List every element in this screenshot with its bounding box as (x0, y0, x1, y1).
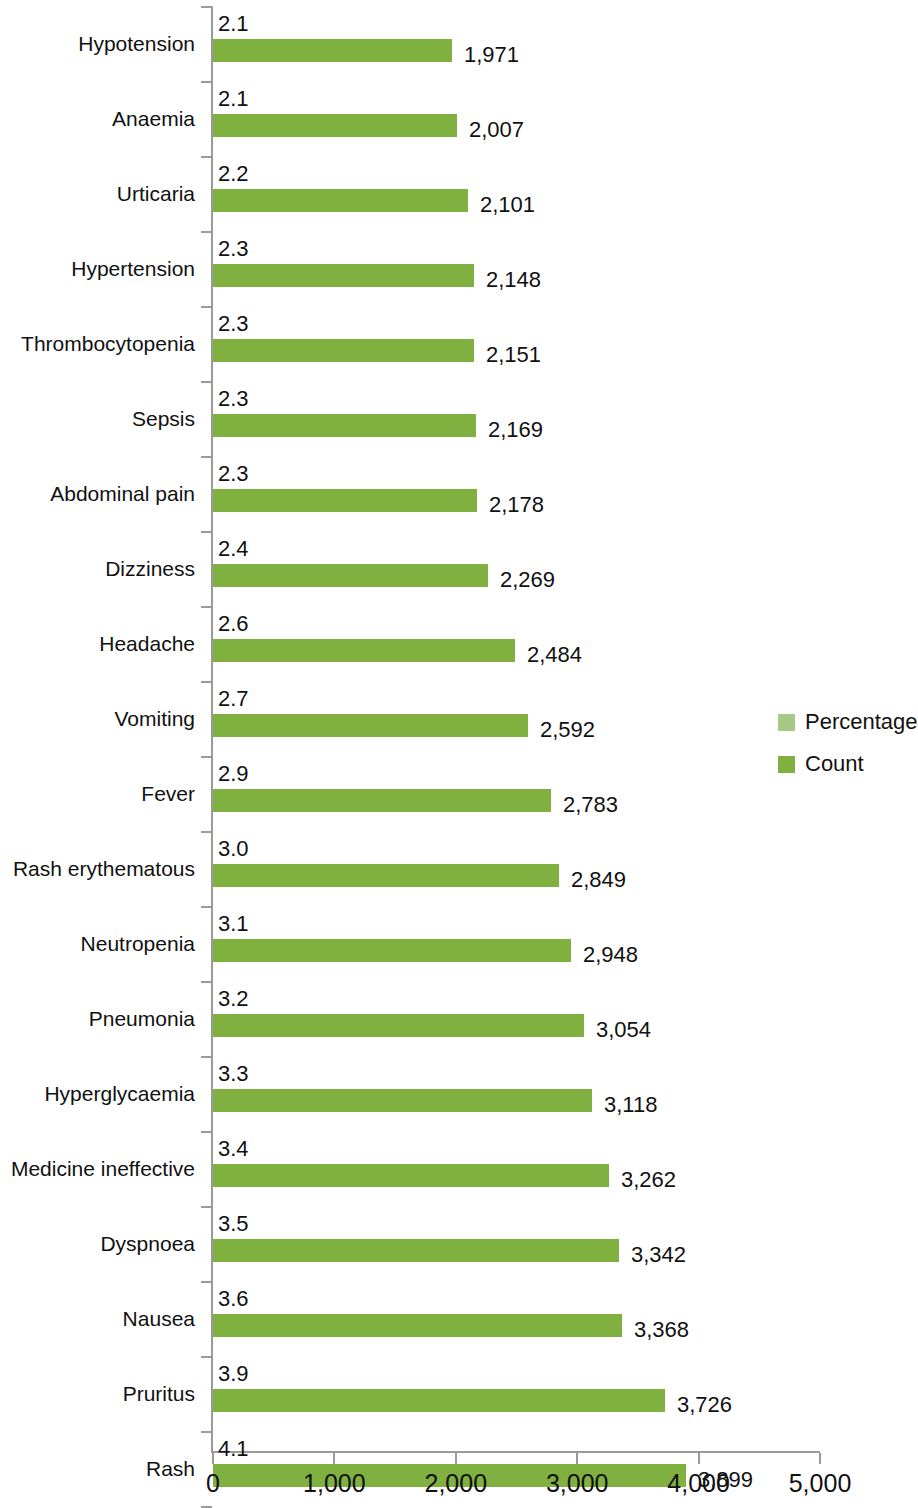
x-axis-tick (698, 1453, 700, 1464)
percentage-value-label: 3.6 (218, 1287, 249, 1311)
percentage-value-label: 2.3 (218, 237, 249, 261)
count-bar (213, 864, 559, 887)
category-label: Abdominal pain (0, 482, 195, 506)
count-bar (213, 39, 452, 62)
bar-row: Fever2.92,783 (0, 756, 904, 831)
bar-row: Nausea3.63,368 (0, 1281, 904, 1356)
count-value-label: 3,262 (621, 1168, 676, 1192)
percentage-value-label: 2.3 (218, 312, 249, 336)
y-axis-tick (201, 531, 212, 533)
count-bar (213, 264, 474, 287)
count-value-label: 2,948 (583, 943, 638, 967)
count-bar (213, 189, 468, 212)
percentage-value-label: 2.4 (218, 537, 249, 561)
percentage-value-label: 3.4 (218, 1137, 249, 1161)
count-bar (213, 714, 528, 737)
y-axis-tick (201, 681, 212, 683)
bar-row: Pneumonia3.23,054 (0, 981, 904, 1056)
percentage-value-label: 3.3 (218, 1062, 249, 1086)
count-value-label: 3,368 (634, 1318, 689, 1342)
percentage-value-label: 2.3 (218, 462, 249, 486)
count-bar (213, 1239, 619, 1262)
x-axis-tick (576, 1453, 578, 1464)
percentage-value-label: 2.1 (218, 87, 249, 111)
category-label: Pneumonia (0, 1007, 195, 1031)
y-axis-tick (201, 1056, 212, 1058)
category-label: Medicine ineffective (0, 1157, 195, 1181)
count-bar (213, 114, 457, 137)
y-axis-tick (201, 81, 212, 83)
count-bar (213, 414, 476, 437)
count-bar (213, 1389, 665, 1412)
category-label: Pruritus (0, 1382, 195, 1406)
bar-row: Dizziness2.42,269 (0, 531, 904, 606)
percentage-value-label: 2.1 (218, 12, 249, 36)
percentage-value-label: 2.9 (218, 762, 249, 786)
percentage-value-label: 4.1 (218, 1437, 249, 1461)
category-label: Vomiting (0, 707, 195, 731)
y-axis-tick (201, 381, 212, 383)
count-bar (213, 939, 571, 962)
count-value-label: 2,592 (540, 718, 595, 742)
count-value-label: 3,342 (631, 1243, 686, 1267)
bar-row: Neutropenia3.12,948 (0, 906, 904, 981)
percentage-value-label: 2.7 (218, 687, 249, 711)
y-axis-tick (201, 1431, 212, 1433)
x-axis-tick (819, 1453, 821, 1464)
y-axis-tick (201, 981, 212, 983)
count-value-label: 2,007 (469, 118, 524, 142)
bar-row: Pruritus3.93,726 (0, 1356, 904, 1431)
percentage-value-label: 3.1 (218, 912, 249, 936)
bar-row: Urticaria2.22,101 (0, 156, 904, 231)
count-bar (213, 489, 477, 512)
count-value-label: 3,054 (596, 1018, 651, 1042)
x-axis-tick-label: 4,000 (639, 1468, 759, 1498)
count-value-label: 2,178 (489, 493, 544, 517)
percentage-value-label: 3.5 (218, 1212, 249, 1236)
count-value-label: 2,849 (571, 868, 626, 892)
percentage-value-label: 2.6 (218, 612, 249, 636)
percentage-value-label: 2.2 (218, 162, 249, 186)
y-axis-tick (201, 1131, 212, 1133)
bar-row: Hypertension2.32,148 (0, 231, 904, 306)
count-value-label: 2,148 (486, 268, 541, 292)
count-bar (213, 789, 551, 812)
bar-row: Thrombocytopenia2.32,151 (0, 306, 904, 381)
y-axis-tick (201, 6, 212, 8)
percentage-value-label: 2.3 (218, 387, 249, 411)
count-value-label: 2,484 (527, 643, 582, 667)
x-axis-tick (455, 1453, 457, 1464)
category-label: Hypotension (0, 32, 195, 56)
count-value-label: 3,118 (604, 1093, 657, 1117)
category-label: Sepsis (0, 407, 195, 431)
percentage-value-label: 3.2 (218, 987, 249, 1011)
bar-row: Rash erythematous3.02,849 (0, 831, 904, 906)
y-axis-tick (201, 606, 212, 608)
bar-row: Anaemia2.12,007 (0, 81, 904, 156)
count-bar (213, 1014, 584, 1037)
x-axis-tick-label: 3,000 (517, 1468, 637, 1498)
count-bar (213, 339, 474, 362)
category-label: Dyspnoea (0, 1232, 195, 1256)
category-label: Fever (0, 782, 195, 806)
x-axis-tick-label: 2,000 (396, 1468, 516, 1498)
y-axis-tick (201, 1356, 212, 1358)
category-label: Dizziness (0, 557, 195, 581)
category-label: Nausea (0, 1307, 195, 1331)
count-value-label: 2,101 (480, 193, 535, 217)
count-value-label: 2,151 (486, 343, 541, 367)
y-axis-tick (201, 831, 212, 833)
x-axis-tick (333, 1453, 335, 1464)
percentage-value-label: 3.9 (218, 1362, 249, 1386)
y-axis-tick (201, 1281, 212, 1283)
count-bar (213, 1314, 622, 1337)
bar-row: Abdominal pain2.32,178 (0, 456, 904, 531)
count-value-label: 3,726 (677, 1393, 732, 1417)
y-axis-tick (201, 456, 212, 458)
legend-swatch-icon (778, 714, 795, 731)
percentage-value-label: 3.0 (218, 837, 249, 861)
x-axis-tick-label: 0 (153, 1468, 273, 1498)
count-value-label: 2,269 (500, 568, 555, 592)
y-axis-tick (201, 1206, 212, 1208)
